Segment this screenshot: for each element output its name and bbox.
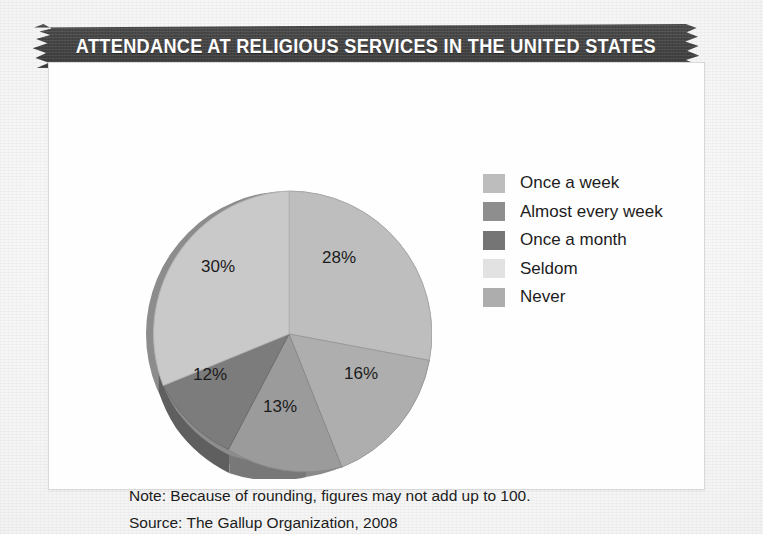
legend-label-once-a-month: Once a month: [520, 230, 627, 250]
legend-label-never: Never: [520, 287, 565, 307]
pie-chart: 28% 16% 13% 12% 30%: [146, 173, 432, 479]
pie-label-almost-every-week: 16%: [344, 364, 378, 383]
pie-label-seldom: 12%: [193, 365, 227, 384]
pie-slice-once-a-week: [289, 191, 432, 360]
chart-legend: Once a week Almost every week Once a mon…: [483, 169, 723, 312]
legend-item-once-a-month[interactable]: Once a month: [483, 226, 723, 255]
page-title: ATTENDANCE AT RELIGIOUS SERVICES IN THE …: [76, 35, 656, 58]
legend-swatch-seldom: [483, 259, 505, 278]
source-note: Source: The Gallup Organization, 2008: [129, 514, 531, 532]
legend-swatch-once-a-month: [483, 231, 505, 250]
legend-label-seldom: Seldom: [520, 259, 578, 279]
chart-card: 28% 16% 13% 12% 30% Once a week Almost e…: [48, 62, 705, 490]
pie-chart-svg: 28% 16% 13% 12% 30%: [146, 173, 432, 479]
pie-label-once-a-month: 13%: [263, 397, 297, 416]
legend-label-almost-every-week: Almost every week: [520, 202, 663, 222]
legend-item-never[interactable]: Never: [483, 283, 723, 312]
pie-label-never: 30%: [201, 257, 235, 276]
chart-footnotes: Note: Because of rounding, figures may n…: [129, 487, 531, 534]
pie-label-once-a-week: 28%: [322, 248, 356, 267]
legend-item-almost-every-week[interactable]: Almost every week: [483, 198, 723, 227]
legend-item-once-a-week[interactable]: Once a week: [483, 169, 723, 198]
legend-swatch-never: [483, 288, 505, 307]
rounding-note: Note: Because of rounding, figures may n…: [129, 487, 531, 505]
legend-label-once-a-week: Once a week: [520, 173, 619, 193]
legend-swatch-once-a-week: [483, 174, 505, 193]
legend-swatch-almost-every-week: [483, 202, 505, 221]
legend-item-seldom[interactable]: Seldom: [483, 255, 723, 284]
